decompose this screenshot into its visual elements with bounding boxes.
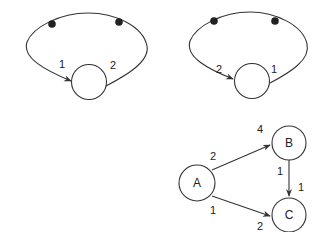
edge-label-incoming: 1: [59, 58, 65, 70]
node-a: A: [179, 165, 215, 201]
edge-b-c-head-label: 1: [298, 181, 304, 193]
edge-label-outgoing: 1: [271, 63, 277, 75]
token-dot: [210, 17, 218, 25]
edge-label-incoming: 2: [216, 63, 222, 75]
edge-label-outgoing: 2: [110, 59, 116, 71]
token-dot: [115, 18, 123, 26]
edge-a-c-head-label: 2: [257, 220, 263, 232]
token-dot: [271, 17, 279, 25]
edge-a-b-tail-label: 2: [210, 150, 216, 162]
node-circle: [72, 65, 107, 100]
graph-bottom: A B C 2 4 1 1 1 2: [179, 123, 306, 232]
node-c-label: C: [285, 208, 294, 222]
node-circle: [235, 64, 270, 99]
graph-right: 2 1: [189, 12, 307, 99]
edge-b-c-tail-label: 1: [277, 165, 283, 177]
token-dot: [48, 20, 56, 28]
node-c: C: [272, 198, 306, 232]
edge-a-b-head-label: 4: [257, 123, 263, 135]
edge-a-b: [212, 145, 270, 170]
graph-left: 1 2: [26, 13, 147, 100]
edge-a-c: [212, 196, 270, 216]
node-b-label: B: [285, 136, 293, 150]
diagram-canvas: 1 2 2 1 A B C 2 4 1 1 1 2: [0, 0, 323, 232]
edge-a-c-tail-label: 1: [210, 204, 216, 216]
node-a-label: A: [193, 176, 201, 190]
node-b: B: [272, 126, 306, 160]
